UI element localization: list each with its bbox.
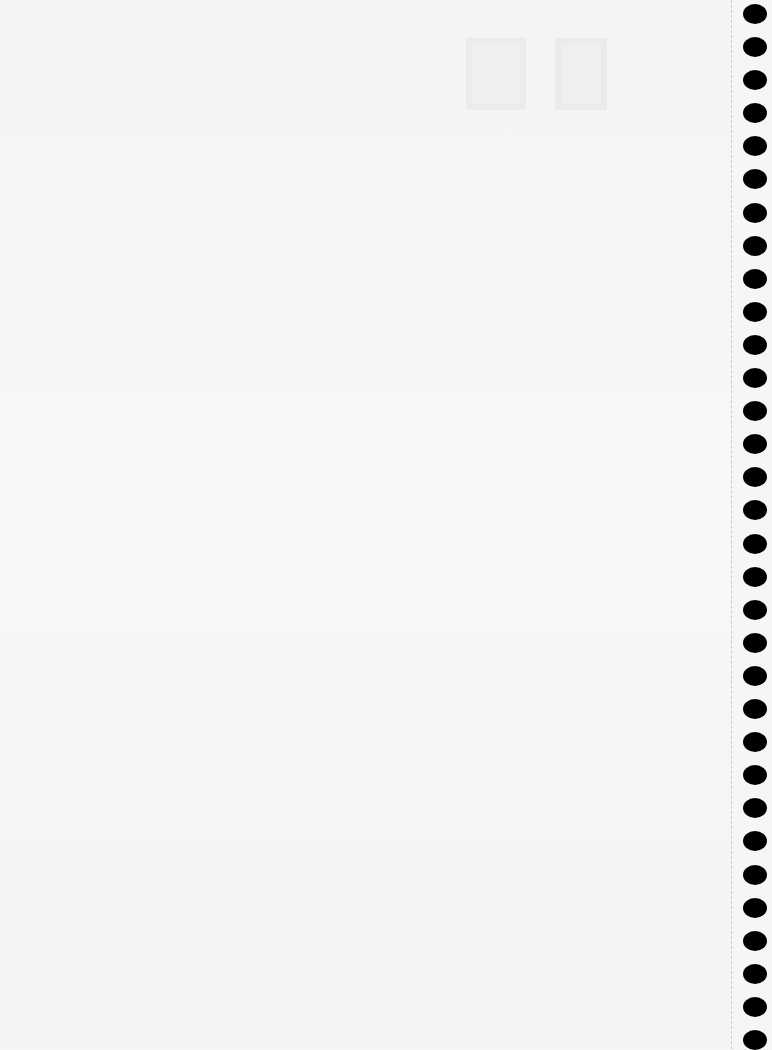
binding-hole-icon xyxy=(743,865,767,885)
spiral-binding-holes xyxy=(743,0,772,1049)
binding-hole-icon xyxy=(743,534,767,554)
binding-hole-icon xyxy=(743,335,767,355)
binding-hole-icon xyxy=(743,368,767,388)
binding-hole-icon xyxy=(743,1030,767,1050)
binding-hole-icon xyxy=(743,732,767,752)
binding-hole-icon xyxy=(743,798,767,818)
binding-hole-icon xyxy=(743,467,767,487)
perforation-line xyxy=(731,0,732,1049)
binding-hole-icon xyxy=(743,203,767,223)
binding-hole-icon xyxy=(743,964,767,984)
binding-hole-icon xyxy=(743,434,767,454)
notebook-page xyxy=(0,0,730,1049)
bleed-through-mark-right xyxy=(555,38,607,110)
binding-hole-icon xyxy=(743,70,767,90)
binding-hole-icon xyxy=(743,401,767,421)
binding-hole-icon xyxy=(743,831,767,851)
binding-hole-icon xyxy=(743,37,767,57)
bleed-through-mark-left xyxy=(466,38,526,110)
binding-hole-icon xyxy=(743,567,767,587)
binding-hole-icon xyxy=(743,136,767,156)
binding-hole-icon xyxy=(743,765,767,785)
binding-hole-icon xyxy=(743,500,767,520)
binding-hole-icon xyxy=(743,600,767,620)
binding-hole-icon xyxy=(743,302,767,322)
binding-hole-icon xyxy=(743,898,767,918)
binding-hole-icon xyxy=(743,633,767,653)
binding-hole-icon xyxy=(743,103,767,123)
binding-hole-icon xyxy=(743,666,767,686)
binding-hole-icon xyxy=(743,699,767,719)
binding-hole-icon xyxy=(743,4,767,24)
binding-hole-icon xyxy=(743,997,767,1017)
binding-hole-icon xyxy=(743,169,767,189)
binding-hole-icon xyxy=(743,931,767,951)
binding-hole-icon xyxy=(743,236,767,256)
binding-hole-icon xyxy=(743,269,767,289)
